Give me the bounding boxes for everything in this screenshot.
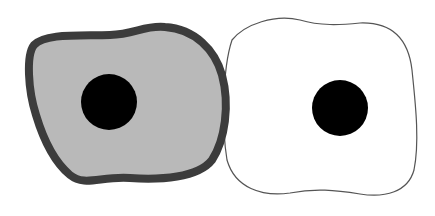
right-cell: [224, 18, 417, 195]
cell-diagram: [0, 0, 435, 216]
right-cell-nucleus: [312, 80, 368, 136]
left-cell-nucleus: [81, 74, 137, 130]
left-cell: [29, 27, 226, 181]
